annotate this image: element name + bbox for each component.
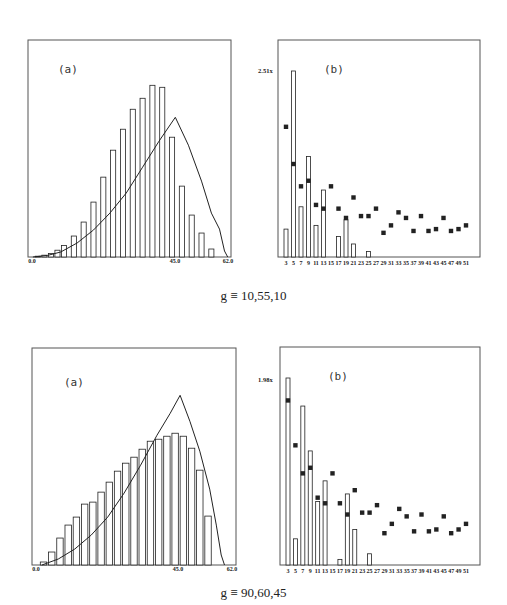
b-xtick-label: 17 <box>336 260 342 266</box>
b-xtick-label: 35 <box>403 260 409 266</box>
b-xtick-label: 47 <box>448 260 454 266</box>
b-xtick-label: 5 <box>294 568 297 574</box>
bar <box>345 494 349 565</box>
data-point-marker <box>434 227 438 231</box>
histogram-bar <box>111 150 116 257</box>
data-point-marker <box>374 206 378 210</box>
data-point-marker <box>345 512 349 516</box>
b-xtick-label: 49 <box>456 568 462 574</box>
data-point-marker <box>366 214 370 218</box>
data-point-marker <box>464 522 468 526</box>
histogram-bar <box>81 504 87 565</box>
panel-label-top-b: (b) <box>324 63 344 76</box>
bar <box>323 481 327 565</box>
b-xtick-label: 15 <box>328 260 334 266</box>
bar <box>314 225 318 257</box>
data-point-marker <box>329 184 333 188</box>
histogram-bar <box>120 129 125 257</box>
b-xtick-label: 11 <box>313 260 319 266</box>
bar <box>301 406 305 565</box>
b-xtick-label: 13 <box>321 260 327 266</box>
data-point-marker <box>404 514 408 518</box>
b-xtick-label: 33 <box>396 260 402 266</box>
histogram-bar <box>188 448 194 565</box>
bar <box>299 207 303 257</box>
b-xtick-label: 19 <box>344 568 350 574</box>
histogram-bar <box>114 471 120 565</box>
b-xtick-label: 43 <box>433 568 439 574</box>
histogram-bar <box>57 538 63 565</box>
caption-top: g ≡ 10,55,10 <box>0 288 507 304</box>
histogram-bar <box>106 482 112 565</box>
panel-label-top-a: (a) <box>58 63 78 76</box>
b-xtick-label: 17 <box>337 568 343 574</box>
data-point-marker <box>293 443 297 447</box>
histogram-bar <box>65 525 71 565</box>
bar <box>293 539 297 565</box>
data-point-marker <box>449 531 453 535</box>
bar <box>367 251 371 257</box>
b-xtick-label: 27 <box>374 568 380 574</box>
data-point-marker <box>367 510 371 514</box>
data-point-marker <box>390 522 394 526</box>
data-point-marker <box>389 223 393 227</box>
panel-label-bottom-b: (b) <box>328 370 348 383</box>
caption-bottom: g ≡ 90,60,45 <box>0 585 507 601</box>
data-point-marker <box>330 471 334 475</box>
b-xtick-label: 9 <box>307 260 310 266</box>
bar <box>352 244 356 257</box>
b-xtick-label: 27 <box>373 260 379 266</box>
data-point-marker <box>306 179 310 183</box>
histogram-bar <box>123 463 129 565</box>
bar <box>286 378 290 565</box>
bar <box>344 220 348 257</box>
data-point-marker <box>397 507 401 511</box>
histogram-bar <box>172 433 178 565</box>
bar <box>353 529 357 565</box>
scatter-bar-panel-top-b <box>278 40 480 257</box>
data-point-marker <box>291 162 295 166</box>
histogram-bar <box>209 249 214 257</box>
data-point-marker <box>353 488 357 492</box>
data-point-marker <box>351 195 355 199</box>
b-xtick-label: 41 <box>426 260 432 266</box>
b-xtick-label: 29 <box>381 260 387 266</box>
b-xtick-label: 5 <box>292 260 295 266</box>
panel-label-bottom-a: (a) <box>64 376 84 389</box>
b-xtick-label: 43 <box>433 260 439 266</box>
data-point-marker <box>321 206 325 210</box>
b-xtick-label: 39 <box>418 260 424 266</box>
data-point-marker <box>449 229 453 233</box>
data-point-marker <box>419 512 423 516</box>
histogram-bar <box>189 215 194 257</box>
b-xtick-label: 39 <box>419 568 425 574</box>
data-point-marker <box>427 529 431 533</box>
bar <box>307 157 311 257</box>
bar <box>368 554 372 565</box>
b-xtick-label: 31 <box>388 260 394 266</box>
b-xtick-label: 7 <box>300 260 303 266</box>
histogram-bar <box>205 516 211 565</box>
b-xtick-label: 51 <box>463 260 469 266</box>
data-point-marker <box>308 466 312 470</box>
b-xtick-label: 19 <box>343 260 349 266</box>
data-point-marker <box>359 214 363 218</box>
histogram-bar <box>179 186 184 257</box>
histogram-bar <box>49 552 55 565</box>
b-xtick-label: 47 <box>448 568 454 574</box>
xtick-top-a-0: 0.0 <box>28 258 36 264</box>
data-point-marker <box>382 531 386 535</box>
data-point-marker <box>412 529 416 533</box>
b-xtick-label: 37 <box>411 568 417 574</box>
b-xtick-label: 21 <box>352 568 358 574</box>
data-point-marker <box>456 527 460 531</box>
b-xtick-label: 25 <box>367 568 373 574</box>
b-xtick-label: 51 <box>463 568 469 574</box>
data-point-marker <box>315 495 319 499</box>
bar <box>338 559 342 565</box>
bar <box>322 190 326 257</box>
b-xtick-label: 25 <box>366 260 372 266</box>
scatter-bar-panel-bottom-b <box>280 347 480 565</box>
b-xtick-label: 15 <box>330 568 336 574</box>
data-point-marker <box>314 203 318 207</box>
